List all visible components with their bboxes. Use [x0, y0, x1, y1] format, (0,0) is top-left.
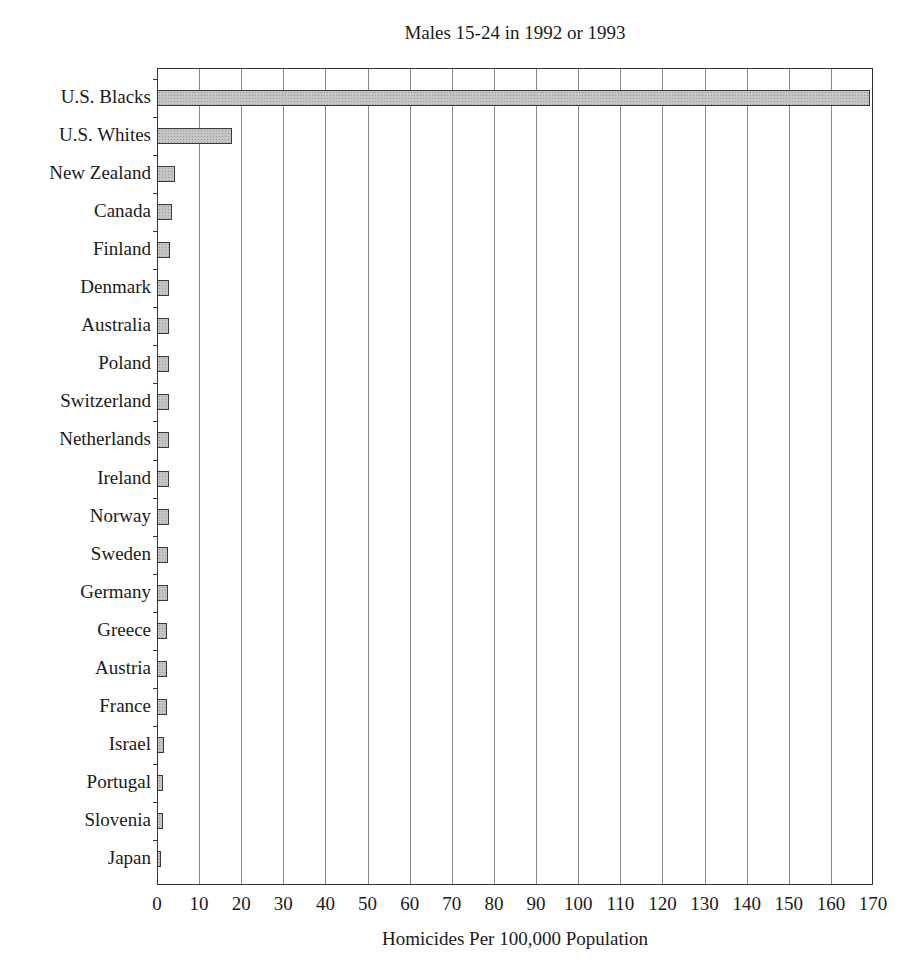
- x-tick-label: 80: [484, 893, 503, 915]
- gridline: [325, 69, 326, 884]
- gridline: [747, 69, 748, 884]
- x-tick-label: 100: [564, 893, 593, 915]
- y-tick: [153, 345, 158, 346]
- x-tick-label: 50: [358, 893, 377, 915]
- y-axis-category-label: Poland: [0, 352, 151, 374]
- y-axis-category-label: Japan: [0, 847, 151, 869]
- y-axis-category-label: U.S. Blacks: [0, 86, 151, 108]
- x-tick-label: 0: [152, 893, 162, 915]
- bar: [158, 166, 175, 182]
- gridline: [283, 69, 284, 884]
- y-axis-category-label: Switzerland: [0, 390, 151, 412]
- bar: [158, 356, 169, 372]
- bar: [158, 737, 164, 753]
- gridline: [241, 69, 242, 884]
- y-tick: [153, 574, 158, 575]
- bar: [158, 394, 169, 410]
- gridline: [578, 69, 579, 884]
- y-tick: [153, 231, 158, 232]
- x-tick-label: 10: [190, 893, 209, 915]
- gridline: [410, 69, 411, 884]
- y-tick: [153, 269, 158, 270]
- bar: [158, 280, 169, 296]
- y-axis-category-label: Finland: [0, 238, 151, 260]
- y-tick: [153, 612, 158, 613]
- gridline: [662, 69, 663, 884]
- y-axis-category-label: Denmark: [0, 276, 151, 298]
- x-axis-label: Homicides Per 100,000 Population: [157, 928, 873, 950]
- y-axis-category-label: U.S. Whites: [0, 124, 151, 146]
- x-tick-label: 130: [690, 893, 719, 915]
- y-axis-category-label: Slovenia: [0, 809, 151, 831]
- x-tick-label: 90: [527, 893, 546, 915]
- x-tick-label: 160: [817, 893, 846, 915]
- plot-area: [157, 68, 873, 885]
- y-tick: [153, 383, 158, 384]
- bar: [158, 128, 232, 144]
- gridline: [199, 69, 200, 884]
- bar: [158, 585, 168, 601]
- gridline: [620, 69, 621, 884]
- y-axis-category-label: France: [0, 695, 151, 717]
- y-tick: [153, 421, 158, 422]
- y-tick: [153, 193, 158, 194]
- bar: [158, 813, 163, 829]
- gridline: [368, 69, 369, 884]
- y-axis-category-label: Portugal: [0, 771, 151, 793]
- y-axis-category-label: Netherlands: [0, 428, 151, 450]
- x-tick-label: 120: [648, 893, 677, 915]
- bar: [158, 775, 163, 791]
- y-axis-category-label: Norway: [0, 505, 151, 527]
- bar: [158, 547, 168, 563]
- bar: [158, 661, 167, 677]
- x-tick-label: 30: [274, 893, 293, 915]
- bar: [158, 204, 172, 220]
- gridline: [452, 69, 453, 884]
- y-tick: [153, 460, 158, 461]
- gridline: [536, 69, 537, 884]
- y-tick: [153, 536, 158, 537]
- y-axis-category-label: Austria: [0, 657, 151, 679]
- y-tick: [153, 155, 158, 156]
- x-tick-label: 170: [859, 893, 888, 915]
- bar: [158, 432, 169, 448]
- y-tick: [153, 117, 158, 118]
- y-tick: [153, 840, 158, 841]
- y-axis-category-label: Germany: [0, 581, 151, 603]
- x-tick-label: 20: [232, 893, 251, 915]
- bar: [158, 851, 161, 867]
- gridline: [494, 69, 495, 884]
- y-axis-category-label: Australia: [0, 314, 151, 336]
- y-axis-category-label: Sweden: [0, 543, 151, 565]
- bar: [158, 471, 169, 487]
- gridline: [789, 69, 790, 884]
- y-axis-category-label: Ireland: [0, 467, 151, 489]
- gridline: [831, 69, 832, 884]
- y-tick: [153, 79, 158, 80]
- x-tick-label: 70: [442, 893, 461, 915]
- bar: [158, 318, 169, 334]
- x-tick-label: 40: [316, 893, 335, 915]
- x-tick-label: 110: [606, 893, 634, 915]
- y-axis-category-label: Canada: [0, 200, 151, 222]
- y-tick: [153, 764, 158, 765]
- y-tick: [153, 802, 158, 803]
- bar: [158, 623, 167, 639]
- y-tick: [153, 307, 158, 308]
- y-tick: [153, 726, 158, 727]
- y-axis-category-label: Greece: [0, 619, 151, 641]
- y-tick: [153, 650, 158, 651]
- y-tick: [153, 498, 158, 499]
- bar: [158, 509, 169, 525]
- chart-title: Males 15-24 in 1992 or 1993: [0, 22, 916, 44]
- y-tick: [153, 688, 158, 689]
- bar: [158, 699, 167, 715]
- y-axis-category-label: New Zealand: [0, 162, 151, 184]
- x-tick-label: 150: [775, 893, 804, 915]
- bar: [158, 90, 870, 106]
- gridline: [705, 69, 706, 884]
- y-axis-category-label: Israel: [0, 733, 151, 755]
- x-tick-label: 140: [732, 893, 761, 915]
- x-tick-label: 60: [400, 893, 419, 915]
- bar: [158, 242, 170, 258]
